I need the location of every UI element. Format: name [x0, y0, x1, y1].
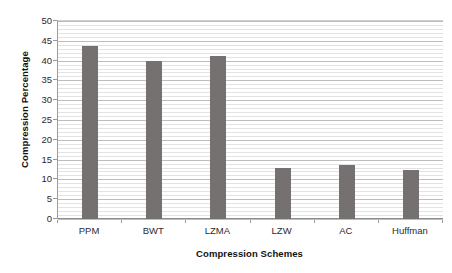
y-axis-tick-label: 40 — [30, 54, 52, 65]
bar-lzma[interactable] — [210, 56, 226, 219]
x-axis-tick-mark — [57, 220, 58, 223]
y-axis-tick-label: 45 — [30, 34, 52, 45]
y-axis-tick-label: 5 — [30, 193, 52, 204]
bar-slot — [251, 21, 315, 219]
x-axis-tick-label: PPM — [79, 224, 100, 237]
y-axis-tick-label: 15 — [30, 153, 52, 164]
y-axis-tick-label: 20 — [30, 133, 52, 144]
y-axis-tick-label: 50 — [30, 15, 52, 26]
x-axis-title: Compression Schemes — [57, 248, 442, 259]
x-axis-tick-mark — [250, 220, 251, 223]
bar-huffman[interactable] — [403, 170, 419, 220]
y-axis-tick-label: 35 — [30, 74, 52, 85]
bar-bwt[interactable] — [146, 61, 162, 219]
y-axis-tick-label: 25 — [30, 114, 52, 125]
x-axis-tick-mark — [378, 220, 379, 223]
x-axis-tick-mark — [442, 220, 443, 223]
bar-slot — [186, 21, 250, 219]
plot-area — [57, 20, 443, 219]
x-axis-tick-label: LZMA — [205, 224, 230, 237]
bar-slot — [58, 21, 122, 219]
x-axis-tick-label: LZW — [272, 224, 292, 237]
x-axis-tick-label: AC — [339, 224, 352, 237]
bar-lzw[interactable] — [275, 168, 291, 219]
x-axis-tick-label: Huffman — [392, 224, 428, 237]
x-axis-tick-mark — [185, 220, 186, 223]
bars-layer — [58, 21, 443, 219]
x-axis-tick-mark — [121, 220, 122, 223]
x-axis-tick-label: BWT — [143, 224, 164, 237]
bar-ppm[interactable] — [82, 46, 98, 219]
y-axis-title: Compression Percentage — [19, 20, 30, 200]
x-axis-tick-mark — [314, 220, 315, 223]
gridline-minor — [58, 219, 443, 220]
bar-chart-figure: Compression Percentage 05101520253035404… — [0, 0, 452, 273]
y-axis-tick-labels: 05101520253035404550 — [30, 14, 52, 220]
bar-slot — [315, 21, 379, 219]
gridline-major — [58, 219, 443, 220]
y-axis-tick-label: 30 — [30, 94, 52, 105]
bar-slot — [379, 21, 443, 219]
bar-ac[interactable] — [339, 165, 355, 219]
bar-slot — [122, 21, 186, 219]
y-axis-tick-label: 0 — [30, 213, 52, 224]
x-axis-tick-labels: PPMBWTLZMALZWACHuffman — [57, 224, 442, 240]
y-axis-tick-label: 10 — [30, 173, 52, 184]
